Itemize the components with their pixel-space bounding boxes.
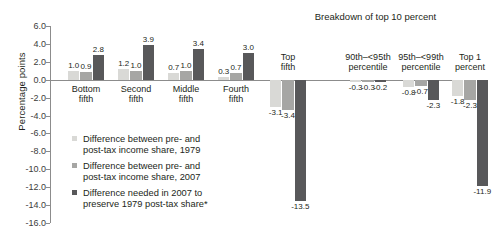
y-axis-tick-mark — [46, 116, 50, 117]
bar — [282, 80, 294, 110]
bar-value-label: -13.5 — [290, 202, 311, 211]
y-axis-tick-mark — [46, 80, 50, 81]
y-axis-tick-label: 4.0 — [10, 40, 46, 48]
legend-item[interactable]: Difference between pre- andpost-tax inco… — [72, 134, 252, 157]
bar-value-label: -11.9 — [472, 187, 493, 196]
bar — [350, 80, 362, 83]
x-axis-category-label-line: percent — [431, 62, 496, 73]
bar — [193, 49, 205, 79]
y-axis-tick-label: -8.0 — [10, 147, 46, 155]
x-axis-category-label: Fourthfifth — [197, 84, 275, 105]
bar — [130, 71, 142, 80]
y-axis-tick-mark — [46, 151, 50, 152]
legend-label-line2: preserve 1979 post-tax share* — [83, 199, 252, 210]
legend-label-line1: Difference between pre- and — [83, 134, 252, 145]
y-axis-tick-mark — [46, 187, 50, 188]
bar — [403, 80, 415, 87]
y-axis-tick-label: -10.0 — [10, 165, 46, 173]
legend-item[interactable]: Difference needed in 2007 topreserve 197… — [72, 188, 252, 211]
y-axis-tick-label: 0.0 — [10, 76, 46, 84]
bar — [93, 55, 105, 80]
y-axis-tick-mark — [46, 223, 50, 224]
bar — [118, 69, 130, 80]
y-axis-tick-mark — [46, 26, 50, 27]
bar-value-label: 2.8 — [88, 45, 109, 54]
y-axis-tick-label: -16.0 — [10, 219, 46, 227]
y-axis-tick-mark — [46, 169, 50, 170]
legend-label-line1: Difference between pre- and — [83, 161, 252, 172]
legend-swatch — [72, 190, 77, 195]
legend-swatch — [72, 163, 77, 168]
y-axis-tick-labels: 6.04.02.00.0-2.0-4.0-6.0-8.0-10.0-12.0-1… — [10, 0, 46, 241]
legend-label-line1: Difference needed in 2007 to — [83, 188, 252, 199]
legend-label-line2: post-tax income share, 2007 — [83, 172, 252, 183]
bar — [80, 72, 92, 80]
x-axis-category-label-line: fifth — [249, 62, 327, 73]
bar-value-label: 3.9 — [138, 35, 159, 44]
panel-title: Breakdown of top 10 percent — [290, 11, 461, 22]
y-axis-tick-label: 6.0 — [10, 22, 46, 30]
x-axis-category-label: Top 1percent — [431, 52, 496, 73]
y-axis-line — [50, 26, 51, 223]
y-axis-tick-mark — [46, 44, 50, 45]
bar-value-label: -0.2 — [370, 83, 391, 92]
bar — [218, 77, 230, 80]
y-axis-tick-label: -2.0 — [10, 94, 46, 102]
y-axis-tick-label: -6.0 — [10, 129, 46, 137]
bar — [295, 80, 307, 201]
x-axis-category-label-line: Top 1 — [431, 52, 496, 63]
y-axis-tick-mark — [46, 133, 50, 134]
y-axis-tick-mark — [46, 62, 50, 63]
y-axis-tick-label: -12.0 — [10, 183, 46, 191]
bar-value-label: 3.0 — [238, 43, 259, 52]
bar — [452, 80, 464, 96]
y-axis-tick-label: 2.0 — [10, 58, 46, 66]
bar — [415, 80, 427, 86]
y-axis-tick-label: -4.0 — [10, 112, 46, 120]
legend-label-line2: post-tax income share, 1979 — [83, 145, 252, 156]
bar — [180, 71, 192, 80]
x-axis-category-label-line: Fourth — [197, 84, 275, 95]
y-axis-tick-mark — [46, 205, 50, 206]
bar — [477, 80, 489, 187]
bar — [230, 73, 242, 79]
bar — [68, 71, 80, 80]
bar — [143, 45, 155, 80]
legend-swatch — [72, 136, 77, 141]
y-axis-tick-label: -14.0 — [10, 201, 46, 209]
x-axis-category-label-line: Top — [249, 52, 327, 63]
legend-item[interactable]: Difference between pre- andpost-tax inco… — [72, 161, 252, 184]
bar-value-label: 3.4 — [188, 39, 209, 48]
bar — [464, 80, 476, 101]
x-axis-category-label-line: fifth — [197, 94, 275, 105]
x-axis-category-label: Topfifth — [249, 52, 327, 73]
bar — [428, 80, 440, 101]
bar-value-label: -2.3 — [423, 101, 444, 110]
bar — [168, 73, 180, 79]
chart-legend: Difference between pre- andpost-tax inco… — [72, 134, 252, 215]
bar — [375, 80, 387, 82]
y-axis-tick-mark — [46, 98, 50, 99]
